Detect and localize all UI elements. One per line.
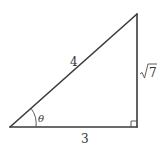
angle-arc bbox=[31, 108, 36, 127]
adjacent-label: 3 bbox=[81, 132, 89, 146]
opposite-radicand: 7 bbox=[149, 66, 157, 80]
right-angle-marker bbox=[131, 121, 137, 127]
hypotenuse-side bbox=[10, 14, 137, 127]
hypotenuse-label: 4 bbox=[70, 55, 78, 69]
triangle-diagram: 4 3 θ 7 bbox=[0, 0, 165, 147]
opposite-label: 7 bbox=[140, 64, 157, 80]
angle-label: θ bbox=[38, 113, 44, 124]
